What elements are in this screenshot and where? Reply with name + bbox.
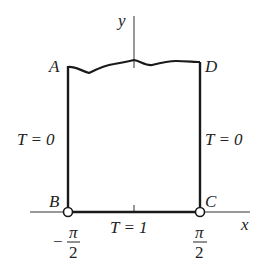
denominator: 2 [195, 243, 204, 262]
pi-numerator: π [69, 223, 78, 242]
corner-label-c: C [205, 192, 217, 211]
tick-label-neg-pi-over-2: − π 2 [53, 223, 80, 262]
tick-label-pi-over-2: π 2 [193, 223, 207, 262]
pi-numerator: π [195, 223, 204, 242]
denominator: 2 [69, 243, 78, 262]
corner-c-marker [196, 208, 205, 217]
x-axis-label: x [240, 215, 249, 234]
corner-label-a: A [48, 57, 60, 76]
corner-label-d: D [204, 57, 218, 76]
left-boundary-condition: T = 0 [17, 130, 55, 149]
bottom-boundary-condition: T = 1 [110, 218, 148, 237]
minus-sign: − [53, 232, 63, 251]
corner-b-marker [64, 208, 73, 217]
right-boundary-condition: T = 0 [205, 130, 243, 149]
y-axis-label: y [116, 11, 126, 30]
semi-infinite-strip-diagram: y x A D B C T = 0 T = 0 T = 1 − π 2 π 2 [0, 0, 265, 273]
corner-label-b: B [49, 192, 60, 211]
